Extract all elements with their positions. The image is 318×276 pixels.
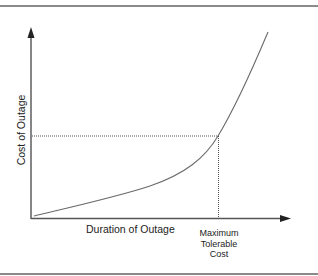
y-axis-arrow-icon (28, 27, 35, 38)
y-axis-label-wrap: Cost of Outage (14, 130, 28, 131)
max-tolerable-cost-line-2: Tolerable (195, 239, 243, 250)
x-axis-label: Duration of Outage (86, 223, 175, 235)
x-axis-arrow-icon (280, 215, 291, 222)
max-tolerable-cost-line-3: Cost (195, 249, 243, 260)
cost-curve (34, 32, 268, 216)
max-tolerable-cost-line-1: Maximum (195, 228, 243, 239)
y-axis-label: Cost of Outage (15, 95, 27, 166)
bottom-border (0, 273, 318, 275)
max-tolerable-cost-label: Maximum Tolerable Cost (195, 228, 243, 260)
